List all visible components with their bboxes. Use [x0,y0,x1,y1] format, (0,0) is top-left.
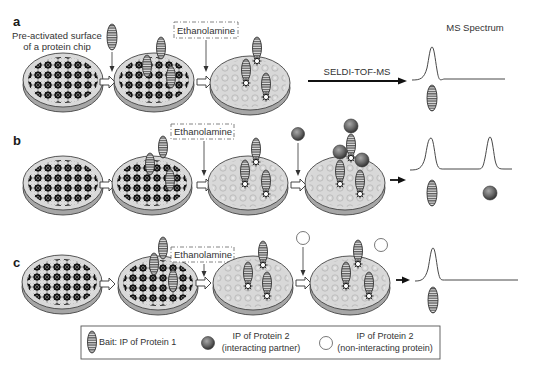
panel-c: c Ethanolamine [13,232,518,316]
ethanolamine-box-b: Ethanolamine [171,124,234,139]
legend: Bait: IP of Protein 1 IP of Protein 2 (i… [81,326,440,359]
chip-bait-bound-a [114,37,194,112]
bait-peak-icon [427,85,437,111]
panel-a: a Pre-activated surface of a protein chi… [12,14,505,115]
legend-label: (non-interacting protein) [337,343,433,353]
white-circle-icon [320,337,333,350]
ms-spectrum-trace [412,47,505,80]
unbound-protein-icon [375,239,388,252]
ethanolamine-box-a: Ethanolamine [174,22,238,38]
panel-label-b: b [13,133,21,148]
interacting-protein-icon [292,128,305,141]
dark-sphere-icon [202,337,215,350]
bait-peak-icon [428,287,438,313]
bait-peak-icon [427,180,437,206]
chip-label-line1: Pre-activated surface [12,30,102,41]
ethanolamine-box-c: Ethanolamine [171,247,234,262]
ms-spectrum-trace-c [415,248,518,281]
legend-label: Bait: IP of Protein 1 [99,337,176,347]
ethanolamine-label: Ethanolamine [177,25,235,36]
ms-spectrum-trace-b [410,137,512,170]
seldi-label: SELDI-TOF-MS [324,66,391,77]
ms-spectrum-title: MS Spectrum [446,22,504,33]
legend-label: IP of Protein 2 [233,331,290,341]
figure-canvas: a Pre-activated surface of a protein chi… [0,0,534,373]
chip-preactivated-b [23,156,103,215]
hollow-arrow [291,179,306,191]
panel-b: b Ethanolamine [13,119,512,215]
interacting-peak-icon [483,186,497,200]
chip-bait-bound-b [112,136,192,215]
panel-label-a: a [13,14,21,29]
ethanolamine-label: Ethanolamine [174,249,232,260]
legend-label: IP of Protein 2 [357,331,414,341]
chip-label-line2: of a protein chip [23,41,91,52]
hollow-arrow [296,277,311,289]
chip-blocked-a [210,37,290,115]
chip-preactivated-a [23,53,103,112]
non-interacting-protein-icon [297,232,310,245]
ethanolamine-label: Ethanolamine [174,126,232,137]
bait-icon [107,24,117,50]
chip-complex-b [305,119,385,215]
legend-label: (interacting partner) [222,343,301,353]
panel-label-c: c [13,255,20,270]
chip-blocked-b [208,138,288,215]
chip-preactivated-c [22,255,102,314]
chip-final-c [310,239,390,316]
